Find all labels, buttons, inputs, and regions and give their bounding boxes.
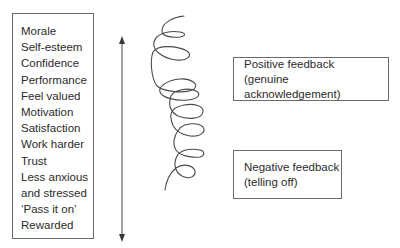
positive-feedback-title: Positive feedback	[244, 57, 388, 72]
bidirectional-arrow-icon	[119, 36, 125, 242]
negative-feedback-box: Negative feedback (telling off)	[233, 150, 342, 199]
negative-feedback-title: Negative feedback	[244, 160, 341, 175]
spiral-line-icon	[151, 16, 204, 190]
positive-feedback-box: Positive feedback (genuine acknowledgeme…	[233, 57, 389, 101]
diagram-graphics	[0, 0, 400, 248]
negative-feedback-subtitle: (telling off)	[244, 175, 341, 190]
positive-feedback-subtitle: (genuine acknowledgement)	[244, 72, 388, 102]
